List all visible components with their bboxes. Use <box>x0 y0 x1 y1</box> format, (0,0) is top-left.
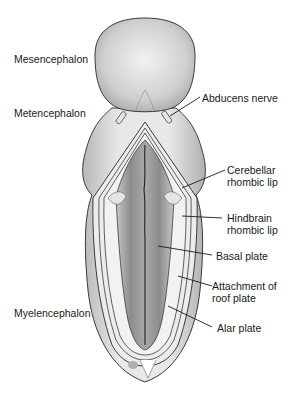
label-mesencephalon: Mesencephalon <box>14 53 88 65</box>
hindbrain-diagram: Mesencephalon Metencephalon Myelencephal… <box>0 0 294 394</box>
label-hindbrain-rhombic-lip: Hindbrain rhombic lip <box>227 212 278 236</box>
mesencephalon-shape <box>95 18 195 112</box>
label-attachment-of-roof-plate: Attachment of roof plate <box>212 280 277 304</box>
label-basal-plate: Basal plate <box>216 250 268 262</box>
label-abducens-nerve: Abducens nerve <box>202 92 278 104</box>
label-metencephalon: Metencephalon <box>14 107 86 119</box>
label-alar-plate: Alar plate <box>217 322 261 334</box>
label-cerebellar-rhombic-lip: Cerebellar rhombic lip <box>227 164 278 188</box>
label-myelencephalon: Myelencephalon <box>14 307 90 319</box>
